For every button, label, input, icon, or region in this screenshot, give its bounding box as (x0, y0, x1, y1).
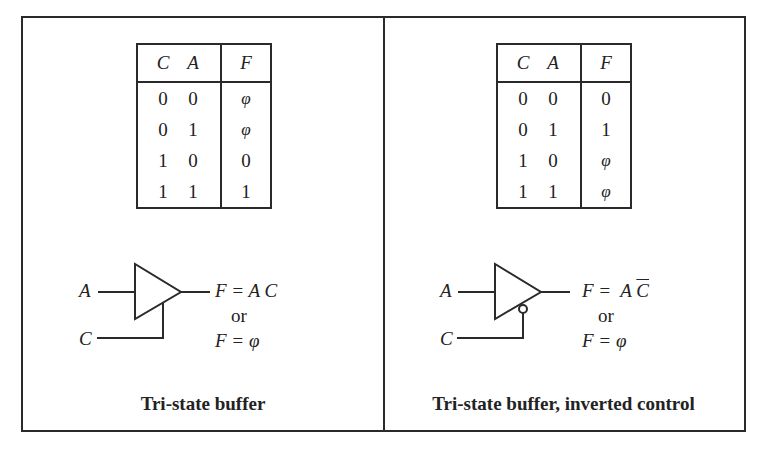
output-equation-prefix: F = A (582, 280, 636, 301)
alt-equation: F = φ (582, 330, 626, 352)
inverted-c: C (636, 280, 649, 301)
or-text: or (598, 305, 614, 327)
caption: Tri-state buffer, inverted control (385, 393, 742, 415)
input-label-a: A (440, 280, 452, 302)
tri-state-buffer-inverted-symbol (0, 0, 764, 450)
output-equation: F = A C (582, 280, 649, 302)
control-label-c: C (440, 328, 453, 350)
